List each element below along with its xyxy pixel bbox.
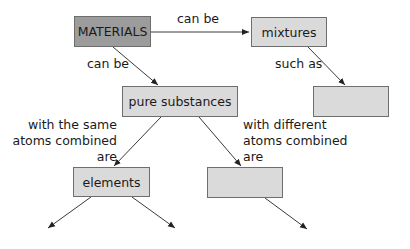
link-label-line: are [243,149,348,165]
arrow-pure-compounds [199,117,241,166]
link-label-line: are [12,149,117,165]
link-label-line: atoms combined [12,133,117,149]
node-mixtures-example-blank[interactable] [313,86,389,117]
link-label-materials-pure: can be [87,56,129,72]
link-label-materials-mixtures: can be [177,11,219,27]
link-label-pure-elements: with the same atoms combined are [12,117,117,165]
node-materials-text: MATERIALS [78,24,148,39]
link-label-pure-compounds: with different atoms combined are [243,117,348,165]
node-compounds-blank[interactable] [207,167,283,198]
link-label-line: atoms combined [243,133,348,149]
node-mixtures-text: mixtures [262,25,317,40]
arrow-elements-left [48,197,91,228]
node-mixtures[interactable]: mixtures [251,17,327,47]
link-label-line: with the same [12,117,117,133]
node-elements[interactable]: elements [73,167,150,197]
arrow-compounds-down [265,198,307,229]
link-label-mixtures-example: such as [275,56,322,72]
node-materials[interactable]: MATERIALS [74,16,151,47]
node-elements-text: elements [82,175,140,190]
node-pure-substances-text: pure substances [129,94,232,109]
arrow-elements-right [132,197,175,228]
link-label-line: with different [243,117,348,133]
arrow-pure-elements [114,117,161,166]
node-pure-substances[interactable]: pure substances [122,86,238,117]
